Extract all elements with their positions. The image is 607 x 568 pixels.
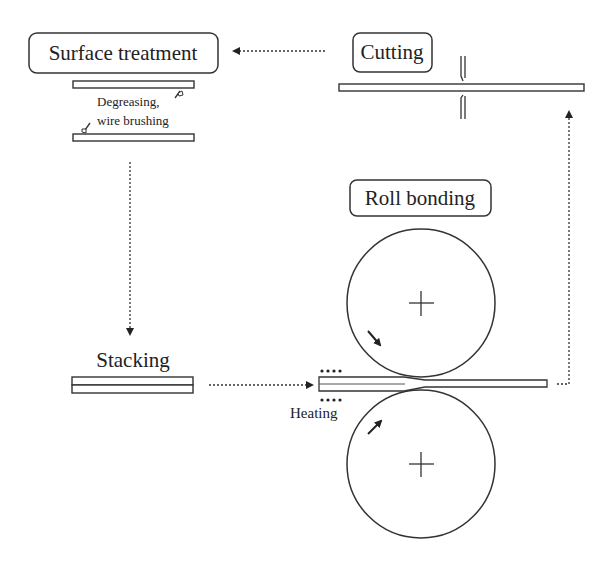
plate-bottom <box>73 134 194 141</box>
plate-top <box>73 81 194 88</box>
surface-treatment-step: Surface treatment Degreasing, wire brush… <box>29 33 218 141</box>
roll-bonding-label: Roll bonding <box>365 186 476 210</box>
roll-bonding-diagram: Surface treatment Degreasing, wire brush… <box>0 0 607 568</box>
brush-icon <box>175 91 183 98</box>
heating-label: Heating <box>290 405 338 421</box>
stacking-step: Stacking <box>72 348 193 393</box>
roll-bonding-step: Roll bonding Heating <box>290 180 547 538</box>
degreasing-label: Degreasing, <box>97 94 159 109</box>
cutting-step: Cutting <box>339 33 584 119</box>
surface-treatment-label: Surface treatment <box>49 41 198 65</box>
stacked-plate-top <box>72 377 193 385</box>
cutting-label: Cutting <box>360 40 424 64</box>
flow-arrow-rolling-to-cutting <box>557 112 569 384</box>
brush-icon <box>82 123 90 133</box>
stacking-label: Stacking <box>96 348 170 372</box>
cut-plate <box>339 84 584 91</box>
stacked-plate-bottom <box>72 385 193 393</box>
wire-brushing-label: wire brushing <box>97 113 169 128</box>
